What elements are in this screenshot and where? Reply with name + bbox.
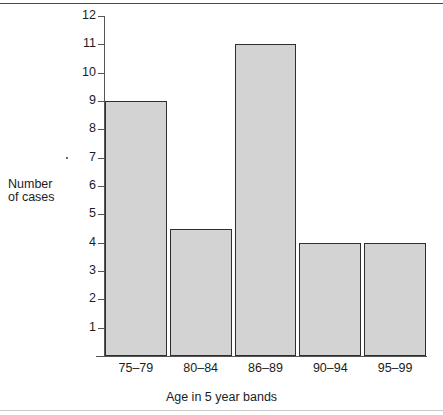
y-axis-tick — [98, 16, 105, 17]
bar — [299, 243, 361, 356]
bar-chart-figure: 123456789101112 75–7980–8486–8990–9495–9… — [0, 0, 443, 415]
y-axis-tick-label: 3 — [66, 264, 96, 277]
y-axis-tick — [98, 186, 105, 187]
y-axis-tick-label: 5 — [66, 207, 96, 220]
y-axis-tick-label-wrap: 6 — [62, 186, 96, 187]
y-axis-tick-label: 1 — [66, 321, 96, 334]
y-axis-tick-label: 12 — [66, 9, 96, 22]
bar — [170, 229, 232, 357]
y-axis-tick-label: 6 — [66, 179, 96, 192]
y-axis-tick-label: 8 — [66, 122, 96, 135]
y-axis-tick-label-wrap: 7 — [62, 158, 96, 159]
y-axis-title: Number of cases — [8, 178, 64, 204]
y-axis-tick-label-wrap: 8 — [62, 129, 96, 130]
y-axis-tick-label: 11 — [66, 37, 96, 50]
y-axis-tick-label-wrap: 10 — [62, 73, 96, 74]
y-axis-tick-label: 10 — [66, 66, 96, 79]
y-axis-tick-label: 4 — [66, 236, 96, 249]
x-axis-line — [96, 356, 427, 357]
x-axis-tick-label: 80–84 — [170, 362, 232, 375]
y-axis-tick — [98, 73, 105, 74]
y-axis-tick-label: 7 — [66, 151, 96, 164]
top-divider-rule — [0, 3, 443, 4]
y-axis-tick-label-wrap: 1 — [62, 328, 96, 329]
y-axis-tick — [98, 158, 105, 159]
bar — [235, 44, 297, 356]
bar — [105, 101, 167, 356]
x-axis-tick-label: 90–94 — [299, 362, 361, 375]
y-axis-tick — [98, 328, 105, 329]
y-axis-tick — [98, 299, 105, 300]
y-axis-tick-label-wrap: 5 — [62, 214, 96, 215]
x-axis-tick-label: 86–89 — [235, 362, 297, 375]
y-axis-tick — [98, 44, 105, 45]
y-axis-title-line-2: of cases — [8, 191, 64, 204]
y-axis-tick — [98, 101, 105, 102]
y-axis-tick — [98, 243, 105, 244]
plot-area — [105, 16, 426, 356]
y-axis-tick — [98, 129, 105, 130]
y-axis-tick — [98, 271, 105, 272]
y-axis-tick-label-wrap: 12 — [62, 16, 96, 17]
y-axis-tick-label-wrap: 3 — [62, 271, 96, 272]
x-axis-title: Age in 5 year bands — [0, 390, 443, 404]
bottom-divider-rule — [0, 410, 443, 411]
bar — [364, 243, 426, 356]
y-axis-tick-label-wrap: 4 — [62, 243, 96, 244]
y-axis-tick-label: 9 — [66, 94, 96, 107]
print-artifact-dot — [66, 157, 68, 159]
y-axis-tick-label: 2 — [66, 292, 96, 305]
x-axis-tick-label: 95–99 — [364, 362, 426, 375]
y-axis-tick-label-wrap: 11 — [62, 44, 96, 45]
y-axis-tick-label-wrap: 2 — [62, 299, 96, 300]
y-axis-tick-label-wrap: 9 — [62, 101, 96, 102]
x-axis-tick-label: 75–79 — [105, 362, 167, 375]
y-axis-tick — [98, 214, 105, 215]
